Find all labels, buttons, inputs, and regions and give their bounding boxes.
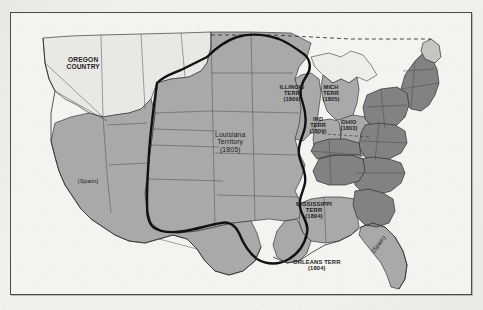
map-label-orleans-terr: ORLEANS TERR(1804) [293, 259, 341, 272]
map-label-line: ILLINOIS [280, 84, 305, 90]
map-label-line: (1804) [293, 265, 341, 271]
map-label-louisiana-territory: LouisianaTerritory(1805) [215, 131, 245, 154]
map-label-line: (1803) [341, 125, 358, 131]
map-label-mississippi-terr: MISSISSIPPITERR(1804) [296, 201, 332, 220]
region-georgia [353, 189, 395, 227]
map-label-michigan-terr: MICHTERR(1805) [323, 84, 340, 103]
map-label-indiana-terr: INDTERR(1809) [310, 116, 327, 135]
map-frame: OREGONCOUNTRY(Spain)LouisianaTerritory(1… [10, 12, 472, 295]
region-great-lakes [311, 51, 377, 83]
map-label-line: (1809) [280, 96, 305, 102]
map-label-line: OHIO [341, 119, 358, 125]
map-label-line: Louisiana [215, 131, 245, 139]
map-label-line: (1809) [310, 128, 327, 134]
map-label-illinois-terr: ILLINOISTERR(1809) [280, 84, 305, 103]
map-label-line: (1805) [323, 96, 340, 102]
region-mid-atlantic [363, 87, 409, 129]
map-label-ohio: OHIO(1803) [341, 119, 358, 132]
region-tennessee-kentucky [313, 155, 365, 185]
map-label-line: MICH [323, 84, 340, 90]
map-label-line: COUNTRY [67, 63, 100, 70]
region-spanish-florida [359, 223, 407, 289]
map-label-spain-west: (Spain) [78, 178, 99, 185]
map-label-line: OREGON [67, 56, 100, 63]
map-label-line: (1805) [215, 146, 245, 154]
map-label-line: (Spain) [78, 178, 99, 185]
scanned-page: Settling the West1800 - 1860 [0, 0, 483, 310]
map-label-line: (1804) [296, 213, 332, 219]
map-label-line: Territory [215, 138, 245, 146]
map-label-oregon-country: OREGONCOUNTRY [67, 56, 100, 71]
